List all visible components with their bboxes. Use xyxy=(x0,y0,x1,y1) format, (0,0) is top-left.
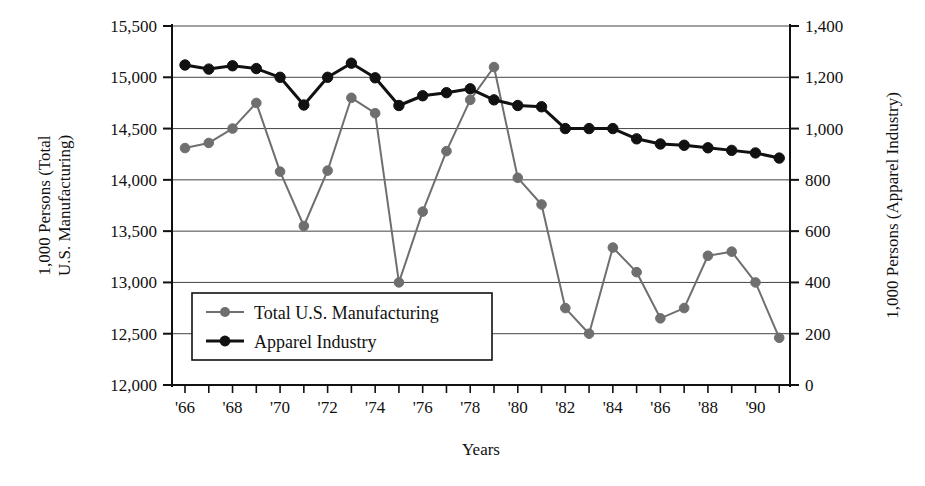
data-point xyxy=(561,303,571,313)
legend-item-label: Total U.S. Manufacturing xyxy=(254,303,439,323)
data-point xyxy=(489,62,499,72)
x-axis-title: Years xyxy=(462,440,500,459)
data-point xyxy=(774,333,784,343)
left-axis-title-line2: U.S. Manufacturing) xyxy=(55,135,74,276)
x-axis-tick-label: '68 xyxy=(222,398,242,417)
data-point xyxy=(560,123,570,133)
x-axis-tick-label: '74 xyxy=(365,398,386,417)
x-axis-tick-label: '72 xyxy=(318,398,338,417)
data-point xyxy=(656,314,666,324)
right-axis-tick-label: 1,000 xyxy=(805,120,843,139)
data-point xyxy=(370,108,380,118)
data-point xyxy=(347,93,357,103)
data-point xyxy=(251,63,261,73)
data-point xyxy=(275,72,285,82)
data-point xyxy=(726,145,736,155)
chart-canvas: 15,50015,00014,50014,00013,50013,00012,5… xyxy=(0,0,925,486)
data-point xyxy=(655,139,665,149)
x-axis-tick-label: '90 xyxy=(745,398,765,417)
left-axis-title-line1: 1,000 Persons (Total xyxy=(35,135,54,275)
data-point xyxy=(679,303,689,313)
data-point xyxy=(299,100,309,110)
data-point xyxy=(513,100,523,110)
data-point xyxy=(489,95,499,105)
x-axis-tick-label: '76 xyxy=(413,398,433,417)
data-point xyxy=(750,148,760,158)
right-axis-tick-label: 800 xyxy=(805,171,831,190)
x-axis-tick-label: '84 xyxy=(603,398,624,417)
data-point xyxy=(608,123,618,133)
left-axis-tick-label: 14,500 xyxy=(110,120,157,139)
data-point xyxy=(774,153,784,163)
x-axis-tick-label: '88 xyxy=(698,398,718,417)
data-point xyxy=(180,143,190,153)
data-point xyxy=(465,95,475,105)
data-point xyxy=(631,134,641,144)
chart-figure: 15,50015,00014,50014,00013,50013,00012,5… xyxy=(0,0,925,486)
data-point xyxy=(465,84,475,94)
data-point xyxy=(322,72,332,82)
right-axis-tick-label: 0 xyxy=(805,376,814,395)
data-point xyxy=(227,61,237,71)
x-axis-tick-label: '78 xyxy=(460,398,480,417)
left-axis-tick-label: 13,000 xyxy=(110,273,157,292)
left-axis-tick-label: 13,500 xyxy=(110,222,157,241)
data-point xyxy=(679,140,689,150)
x-axis-tick-label: '80 xyxy=(508,398,528,417)
legend-item-label: Apparel Industry xyxy=(254,332,376,352)
data-point xyxy=(703,143,713,153)
right-axis-tick-label: 1,200 xyxy=(805,68,843,87)
right-axis-tick-label: 600 xyxy=(805,222,831,241)
data-point xyxy=(441,87,451,97)
legend-swatch-marker xyxy=(220,336,231,347)
data-point xyxy=(584,329,594,339)
data-point xyxy=(299,221,309,231)
data-point xyxy=(417,91,427,101)
data-point xyxy=(394,278,404,288)
data-point xyxy=(751,278,761,288)
left-axis-tick-label: 12,500 xyxy=(110,325,157,344)
x-axis-tick-label: '70 xyxy=(270,398,290,417)
right-axis-tick-label: 1,400 xyxy=(805,17,843,36)
data-point xyxy=(632,267,642,277)
data-point xyxy=(346,58,356,68)
data-point xyxy=(228,124,238,134)
data-point xyxy=(536,102,546,112)
right-axis-title: 1,000 Persons (Apparel Industry) xyxy=(883,92,902,319)
data-point xyxy=(442,146,452,156)
left-axis-tick-label: 15,000 xyxy=(110,68,157,87)
data-point xyxy=(204,64,214,74)
left-axis-tick-label: 15,500 xyxy=(110,17,157,36)
legend-group: Total U.S. ManufacturingApparel Industry xyxy=(192,293,492,360)
data-point xyxy=(537,200,547,210)
data-point xyxy=(275,167,285,177)
data-point xyxy=(584,123,594,133)
data-point xyxy=(370,73,380,83)
data-point xyxy=(204,138,214,148)
data-point xyxy=(608,243,618,253)
data-point xyxy=(513,173,523,183)
x-axis-tick-label: '82 xyxy=(555,398,575,417)
data-point xyxy=(394,100,404,110)
right-axis-tick-label: 400 xyxy=(805,273,831,292)
data-point xyxy=(252,98,262,108)
left-axis-tick-label: 14,000 xyxy=(110,171,157,190)
right-axis-tick-label: 200 xyxy=(805,325,831,344)
data-point xyxy=(703,251,713,261)
data-point xyxy=(418,207,428,217)
data-point xyxy=(180,60,190,70)
x-axis-tick-label: '66 xyxy=(175,398,195,417)
x-axis-tick-label: '86 xyxy=(650,398,670,417)
data-point xyxy=(323,166,333,176)
left-axis-tick-label: 12,000 xyxy=(110,376,157,395)
legend-swatch-marker xyxy=(220,307,230,317)
data-point xyxy=(727,247,737,257)
